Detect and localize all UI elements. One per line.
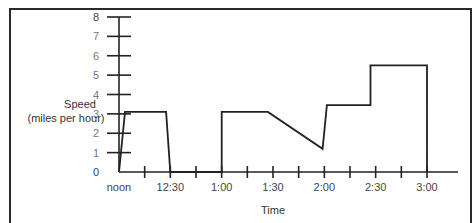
y-tick-label: 2 xyxy=(93,127,99,139)
x-tick-label: noon xyxy=(107,181,131,193)
x-tick-label: 2:30 xyxy=(365,181,386,193)
y-tick-label: 8 xyxy=(93,11,99,23)
x-tick-label: 2:00 xyxy=(314,181,335,193)
y-axis-label-line2: (miles per hour) xyxy=(27,112,104,124)
x-tick-labels: noon12:301:001:302:002:303:00 xyxy=(107,181,438,193)
y-tick-label: 1 xyxy=(93,147,99,159)
x-tick-label: 1:30 xyxy=(262,181,283,193)
axes xyxy=(107,17,458,178)
x-axis-label: Time xyxy=(261,204,285,216)
y-axis-label-line1: Speed xyxy=(64,98,96,110)
speed-line xyxy=(119,65,427,172)
x-tick-label: 1:00 xyxy=(211,181,232,193)
y-tick-label: 5 xyxy=(93,69,99,81)
y-tick-label: 7 xyxy=(93,30,99,42)
y-tick-label: 6 xyxy=(93,50,99,62)
x-tick-label: 12:30 xyxy=(157,181,185,193)
y-tick-labels: 012345678 xyxy=(93,11,99,178)
x-tick-label: 3:00 xyxy=(416,181,437,193)
y-tick-label: 0 xyxy=(93,166,99,178)
speed-time-chart: 012345678 noon12:301:001:302:002:303:00 … xyxy=(0,0,476,223)
